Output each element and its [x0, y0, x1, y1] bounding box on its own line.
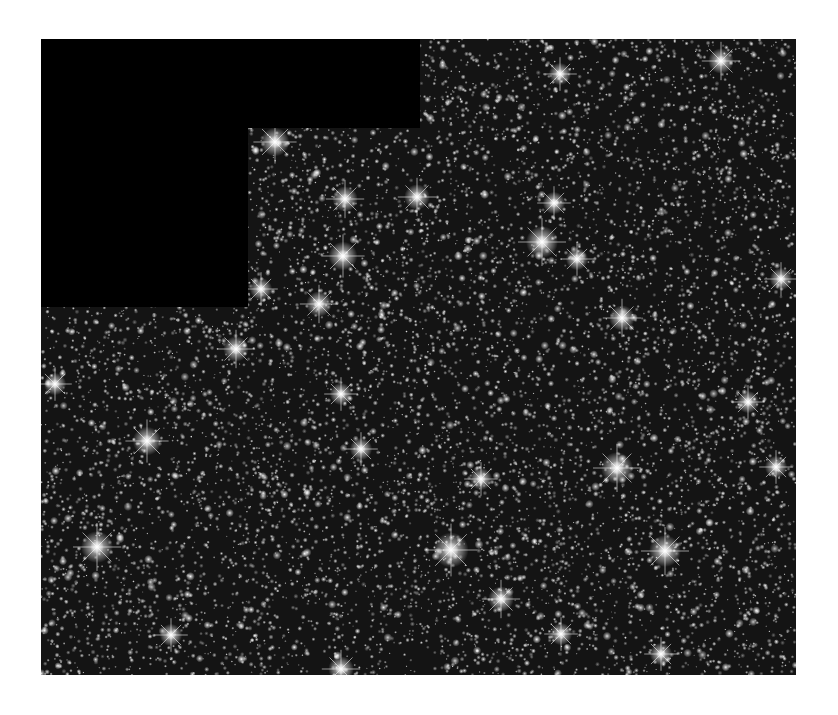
star-field-image: [41, 39, 796, 675]
masked-region-left: [41, 128, 248, 307]
masked-region-top: [41, 39, 420, 128]
